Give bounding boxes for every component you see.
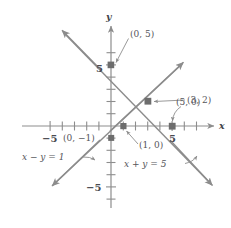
leader-5-0 (173, 107, 182, 122)
y-tick-label-5: 5 (96, 63, 103, 74)
point-5-0 (169, 123, 176, 130)
line-x-minus-y-1-arrow-down (52, 140, 100, 186)
graph-figure: x y −5 5 5 −5 (0, 5) (3, 2) (5, 0) (1, 0… (0, 0, 231, 228)
x-axis (22, 121, 214, 131)
point-label-1-0: (1, 0) (139, 140, 163, 150)
point-3-2 (145, 98, 152, 105)
y-tick-label-neg5: −5 (86, 182, 101, 193)
point-label-5-0: (5, 0) (176, 97, 200, 107)
line-x-plus-y-5-arrow-up (62, 30, 100, 69)
point-label-0-neg1: (0, −1) (63, 133, 95, 143)
point-1-0 (120, 123, 126, 129)
point-0-neg-1 (108, 135, 114, 141)
x-tick-label-5: 5 (169, 133, 176, 144)
y-axis (106, 26, 116, 208)
point-label-0-5: (0, 5) (130, 29, 154, 39)
equation-label-x-minus-y: x − y = 1 (22, 152, 64, 162)
leader-x-minus-y-1 (83, 157, 95, 160)
coordinate-plane-svg: x y −5 5 5 −5 (0, 5) (3, 2) (5, 0) (1, 0… (0, 0, 231, 228)
x-axis-label: x (218, 120, 225, 131)
point-0-5 (108, 62, 115, 69)
line-x-plus-y-5-arrow-down (170, 140, 213, 186)
leader-1-0 (127, 131, 139, 144)
leader-0-5 (116, 39, 129, 63)
y-axis-label: y (105, 11, 113, 22)
equation-label-x-plus-y: x + y = 5 (124, 159, 167, 169)
x-tick-label-neg5: −5 (42, 133, 57, 144)
